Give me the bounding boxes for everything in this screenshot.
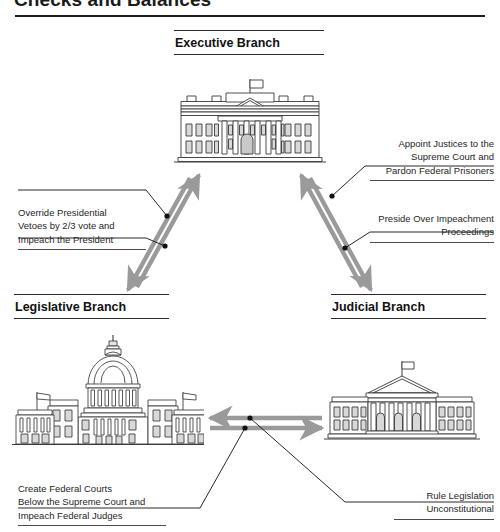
caption-create-federal-courts: Create Federal Courts Below the Supreme … [18,468,166,532]
arrow-judicial-to-executive [301,175,362,287]
caption-rule [394,519,494,520]
caption-text: Rule Legislation Unconstitutional [426,490,494,515]
arrow-legislative-to-executive [137,175,199,287]
page-title: Checks and Balances [14,0,211,11]
branch-heading-label: Judicial Branch [331,295,486,318]
caption-rule-unconstitutional: Rule Legislation Unconstitutional [394,475,494,532]
caption-override-veto: Override Presidential Vetoes by 2/3 vote… [18,192,146,264]
caption-text: Create Federal Courts Below the Supreme … [18,483,145,521]
branch-heading-judicial: Judicial Branch [331,294,486,319]
caption-rule [18,249,146,250]
caption-appoint-justices: Appoint Justices to the Supreme Court an… [370,123,494,195]
caption-text: Override Presidential Vetoes by 2/3 vote… [18,207,115,245]
caption-text: Appoint Justices to the Supreme Court an… [386,138,494,176]
branch-heading-legislative: Legislative Branch [14,294,169,319]
caption-text: Preside Over Impeachment Proceedings [378,213,494,238]
heading-rule-bottom [174,54,324,55]
branch-heading-executive: Executive Branch [174,30,324,55]
branch-heading-label: Executive Branch [174,31,324,54]
white-house-icon [168,78,332,176]
title-divider [15,15,485,17]
capitol-building-icon [8,334,204,446]
heading-rule-bottom [331,318,486,319]
caption-rule [370,242,494,243]
heading-rule-bottom [14,318,169,319]
diagram-page: Checks and Balances Executive Branch Leg… [0,0,500,532]
caption-rule [370,180,494,181]
arrow-executive-to-judicial [310,178,371,290]
branch-heading-label: Legislative Branch [14,295,169,318]
caption-rule [18,525,166,526]
caption-preside-impeachment: Preside Over Impeachment Proceedings [370,198,494,256]
supreme-court-icon [322,360,482,448]
